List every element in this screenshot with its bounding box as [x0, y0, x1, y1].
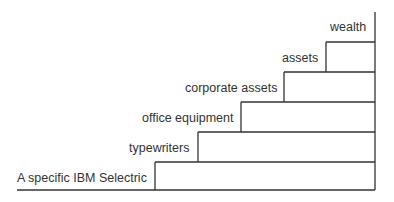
label-assets: assets — [282, 51, 318, 65]
label-typewriters: typewriters — [129, 141, 189, 155]
label-ibm-selectric: A specific IBM Selectric — [17, 171, 147, 185]
label-office-equipment: office equipment — [142, 111, 234, 125]
label-corporate-assets: corporate assets — [185, 81, 277, 95]
label-wealth: wealth — [330, 20, 366, 34]
